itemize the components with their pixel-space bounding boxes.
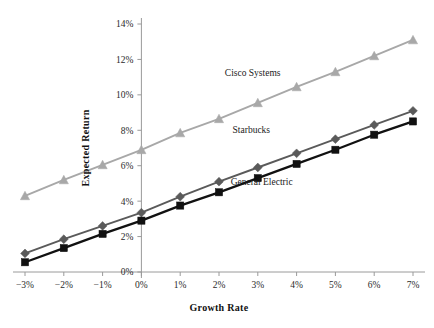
y-tick-label: 4% bbox=[121, 197, 134, 207]
y-tick-label: 0% bbox=[121, 267, 134, 277]
series-annotation-cisco-systems: Cisco Systems bbox=[225, 68, 281, 78]
x-axis-title: Growth Rate bbox=[190, 302, 249, 313]
data-point-square-marker bbox=[177, 202, 184, 209]
y-tick-label: 8% bbox=[121, 126, 134, 136]
data-point-diamond-marker bbox=[176, 192, 185, 201]
y-tick-label: 6% bbox=[121, 161, 134, 171]
series-annotation-general-electric: General Electric bbox=[231, 177, 293, 187]
data-point-square-marker bbox=[60, 244, 67, 251]
x-tick-label: 2% bbox=[213, 280, 226, 290]
x-tick-label: 3% bbox=[251, 280, 264, 290]
x-tick-label: −1% bbox=[94, 280, 112, 290]
data-point-square-marker bbox=[332, 146, 339, 153]
data-point-square-marker bbox=[21, 259, 28, 266]
y-axis-title: Expected Return bbox=[80, 109, 91, 186]
data-point-diamond-marker bbox=[253, 163, 262, 172]
series-annotation-starbucks: Starbucks bbox=[233, 125, 271, 135]
data-point-square-marker bbox=[215, 189, 222, 196]
x-tick-label: −3% bbox=[16, 280, 34, 290]
data-point-diamond-marker bbox=[137, 208, 146, 217]
data-point-square-marker bbox=[293, 160, 300, 167]
data-point-diamond-marker bbox=[292, 149, 301, 158]
data-point-square-marker bbox=[371, 131, 378, 138]
data-point-triangle-marker bbox=[137, 145, 146, 154]
data-point-diamond-marker bbox=[98, 222, 107, 231]
data-point-triangle-marker bbox=[408, 35, 417, 44]
data-point-diamond-marker bbox=[331, 135, 340, 144]
x-tick-label: 6% bbox=[368, 280, 381, 290]
data-point-diamond-marker bbox=[409, 106, 418, 115]
data-point-square-marker bbox=[138, 217, 145, 224]
data-point-diamond-marker bbox=[370, 121, 379, 130]
labels-layer: −3%−2%−1%0%1%2%3%4%5%6%7%0%2%4%6%8%10%12… bbox=[16, 19, 419, 313]
data-point-diamond-marker bbox=[59, 235, 68, 244]
x-tick-label: 0% bbox=[135, 280, 148, 290]
x-tick-label: −2% bbox=[55, 280, 73, 290]
y-tick-label: 14% bbox=[116, 19, 134, 29]
data-point-square-marker bbox=[99, 230, 106, 237]
x-tick-label: 5% bbox=[329, 280, 342, 290]
data-point-diamond-marker bbox=[215, 177, 224, 186]
axis-layer bbox=[13, 18, 425, 278]
y-tick-label: 2% bbox=[121, 232, 134, 242]
x-tick-label: 7% bbox=[407, 280, 420, 290]
y-tick-label: 10% bbox=[116, 90, 134, 100]
chart-container: −3%−2%−1%0%1%2%3%4%5%6%7%0%2%4%6%8%10%12… bbox=[0, 0, 434, 328]
data-point-square-marker bbox=[409, 118, 416, 125]
x-tick-label: 1% bbox=[174, 280, 187, 290]
data-point-diamond-marker bbox=[21, 249, 30, 258]
expected-return-vs-growth-rate-chart: −3%−2%−1%0%1%2%3%4%5%6%7%0%2%4%6%8%10%12… bbox=[0, 0, 434, 328]
y-tick-label: 12% bbox=[116, 55, 134, 65]
x-tick-label: 4% bbox=[290, 280, 303, 290]
